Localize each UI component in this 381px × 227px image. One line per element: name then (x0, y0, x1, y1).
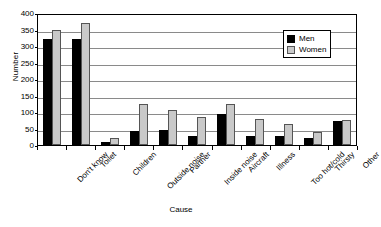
bar-group (240, 15, 269, 145)
bar-group (38, 15, 67, 145)
bar-group (67, 15, 96, 145)
bar-men (275, 136, 284, 145)
legend-swatch-women-icon (287, 46, 295, 54)
bar-men (72, 39, 81, 145)
bar-women (139, 104, 148, 145)
bar-women (313, 132, 322, 145)
bar-men (101, 142, 110, 145)
y-tick-label: 50 (10, 126, 34, 134)
bar-women (110, 138, 119, 145)
bar-group (154, 15, 183, 145)
legend-item-men: Men (287, 33, 326, 44)
y-tick-label: 350 (10, 27, 34, 35)
bar-women (81, 23, 90, 145)
bar-men (130, 131, 139, 145)
x-category-label: Illness (274, 150, 296, 172)
chart-legend: Men Women (283, 30, 331, 58)
bar-group (183, 15, 212, 145)
bar-men (188, 136, 197, 145)
y-tick-label: 150 (10, 93, 34, 101)
bar-women (168, 110, 177, 145)
y-tick-label: 100 (10, 109, 34, 117)
x-category-label: Children (131, 150, 158, 177)
y-tick-label: 0 (10, 142, 34, 150)
bar-men (217, 114, 226, 145)
bar-men (246, 136, 255, 145)
legend-item-women: Women (287, 44, 326, 55)
bar-men (304, 138, 313, 145)
bar-women (342, 120, 351, 145)
y-tick-label: 400 (10, 10, 34, 18)
x-category-label: Partner (188, 150, 213, 175)
bar-men (159, 130, 168, 145)
bar-group (125, 15, 154, 145)
x-category-label: Other (361, 150, 381, 171)
x-axis-title: Cause (0, 205, 362, 214)
bar-women (284, 124, 293, 145)
x-axis-labels: Don't knowToiletChildrenOutside noisePar… (37, 150, 357, 210)
bar-group (211, 15, 240, 145)
y-tick-label: 250 (10, 60, 34, 68)
y-axis-ticks: 050100150200250300350400 (10, 10, 34, 150)
bar-men (43, 39, 52, 145)
bar-group (96, 15, 125, 145)
legend-label-women: Women (299, 45, 326, 54)
bar-women (226, 104, 235, 145)
legend-label-men: Men (299, 34, 315, 43)
bar-women (197, 117, 206, 145)
bar-men (333, 121, 342, 145)
y-tick-label: 300 (10, 43, 34, 51)
y-tick-label: 200 (10, 76, 34, 84)
bar-women (52, 30, 61, 145)
x-tick-mark (357, 146, 358, 150)
bar-women (255, 119, 264, 145)
legend-swatch-men-icon (287, 35, 295, 43)
